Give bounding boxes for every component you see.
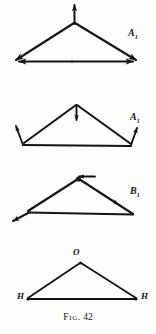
figure-caption-word: Fig. xyxy=(63,312,80,322)
diagram-1-left-side-arrow xyxy=(16,23,74,60)
diagram-4-vertex-label-o: O xyxy=(73,248,80,257)
diagram-4-vertex-h-left-node xyxy=(26,297,29,300)
diagram-1-label-subscript: 1 xyxy=(135,33,138,40)
diagram-2-right-vertex-arrow xyxy=(131,128,137,145)
diagram-1-group xyxy=(16,5,136,62)
figure-caption: Fig. 42 xyxy=(0,312,156,322)
diagram-2-label-subscript: 1 xyxy=(137,117,140,124)
diagram-4-vertex-label-h-right: H xyxy=(141,292,148,301)
diagram-2-right-side xyxy=(77,105,131,144)
diagram-3-right-side xyxy=(79,179,133,214)
diagram-1-label: A1 xyxy=(128,28,138,40)
diagram-4-vertex-o-node xyxy=(79,262,82,265)
diagram-2-group xyxy=(16,105,137,146)
diagram-3-left-side xyxy=(28,179,78,211)
diagram-3-group xyxy=(13,177,133,222)
diagram-4-group xyxy=(26,262,137,301)
diagram-3-base-left-arrow xyxy=(13,212,30,221)
diagram-1-right-side-arrow xyxy=(75,23,136,60)
diagram-2-label: A1 xyxy=(130,112,140,124)
diagram-1-label-letter: A xyxy=(128,27,135,38)
diagram-3-base-line xyxy=(28,213,133,215)
diagram-3-label: B1 xyxy=(130,186,140,198)
figure-42-drawing xyxy=(0,0,156,334)
figure-42-container: A1 A1 B1 O H H Fig. 42 xyxy=(0,0,156,334)
figure-caption-number: 42 xyxy=(81,312,93,322)
diagram-2-label-letter: A xyxy=(130,111,137,122)
diagram-4-left-side xyxy=(28,263,80,298)
diagram-4-vertex-label-h-left: H xyxy=(17,292,24,301)
diagram-4-right-side xyxy=(81,263,136,298)
diagram-3-label-subscript: 1 xyxy=(137,191,140,198)
diagram-2-left-side xyxy=(24,105,76,143)
diagram-2-base-line xyxy=(23,145,131,146)
diagram-4-vertex-h-right-node xyxy=(134,297,137,300)
diagram-2-left-vertex-arrow xyxy=(16,126,23,145)
diagram-3-label-letter: B xyxy=(130,185,137,196)
